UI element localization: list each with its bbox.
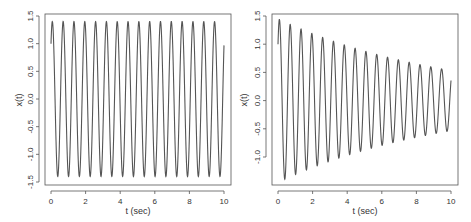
y-tick-label: 0.5 bbox=[253, 66, 262, 78]
x-tick-label: 4 bbox=[118, 197, 123, 206]
y-tick-label: 1.0 bbox=[253, 38, 262, 50]
y-tick-label: 0.0 bbox=[26, 93, 35, 105]
x-tick-label: 8 bbox=[414, 197, 419, 206]
left-y-label: x(t) bbox=[14, 94, 24, 107]
y-tick-label: -0.5 bbox=[253, 121, 262, 135]
left-x-axis: 0246810 bbox=[49, 191, 229, 206]
right-x-axis: 0246810 bbox=[276, 191, 456, 206]
y-tick-label: 1.0 bbox=[26, 38, 35, 50]
x-tick-label: 0 bbox=[276, 197, 281, 206]
left-y-axis: 1.51.00.50.0-0.5-1.0-1.5 bbox=[26, 10, 39, 189]
y-tick-label: 0.5 bbox=[26, 65, 35, 77]
right-curve-damped bbox=[278, 20, 451, 180]
y-tick-label: 1.5 bbox=[26, 10, 35, 22]
left-x-label: t (sec) bbox=[125, 206, 150, 216]
x-tick-label: 8 bbox=[187, 197, 192, 206]
x-tick-label: 2 bbox=[310, 197, 315, 206]
left-curve-undamped bbox=[51, 22, 224, 177]
right-y-axis: 1.51.00.50.0-0.5-1.0 bbox=[253, 10, 266, 164]
y-tick-label: -1.0 bbox=[253, 150, 262, 164]
x-tick-label: 10 bbox=[220, 197, 229, 206]
y-tick-label: 0.0 bbox=[253, 94, 262, 106]
right-x-label: t (sec) bbox=[352, 206, 377, 216]
x-tick-label: 6 bbox=[380, 197, 385, 206]
figure: 1.51.00.50.0-0.5-1.0-1.5 0246810 t (sec)… bbox=[0, 0, 471, 222]
y-tick-label: -1.5 bbox=[26, 175, 35, 189]
x-tick-label: 4 bbox=[345, 197, 350, 206]
y-tick-label: -0.5 bbox=[26, 119, 35, 133]
x-tick-label: 0 bbox=[49, 197, 54, 206]
y-tick-label: -1.0 bbox=[26, 147, 35, 161]
y-tick-label: 1.5 bbox=[253, 10, 262, 22]
right-y-label: x(t) bbox=[239, 94, 249, 107]
x-tick-label: 6 bbox=[153, 197, 158, 206]
x-tick-label: 2 bbox=[83, 197, 88, 206]
right-plot: 1.51.00.50.0-0.5-1.0 0246810 t (sec) x(t… bbox=[239, 10, 458, 216]
x-tick-label: 10 bbox=[447, 197, 456, 206]
left-plot: 1.51.00.50.0-0.5-1.0-1.5 0246810 t (sec)… bbox=[14, 10, 231, 216]
